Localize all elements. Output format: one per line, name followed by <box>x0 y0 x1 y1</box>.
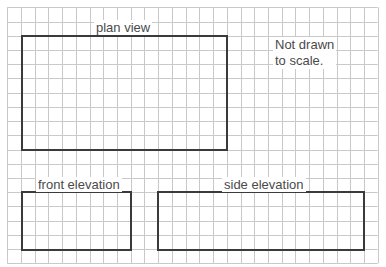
front-elevation-label: front elevation <box>36 177 122 192</box>
note-line-2: to scale. <box>275 53 334 69</box>
note-line-1: Not drawn <box>275 37 334 53</box>
front-elevation-box <box>21 191 132 251</box>
side-elevation-label: side elevation <box>222 177 306 192</box>
not-to-scale-note: Not drawn to scale. <box>273 37 336 69</box>
side-elevation-box <box>157 191 365 251</box>
plan-view-label: plan view <box>94 20 152 35</box>
plan-view-box <box>21 35 228 151</box>
